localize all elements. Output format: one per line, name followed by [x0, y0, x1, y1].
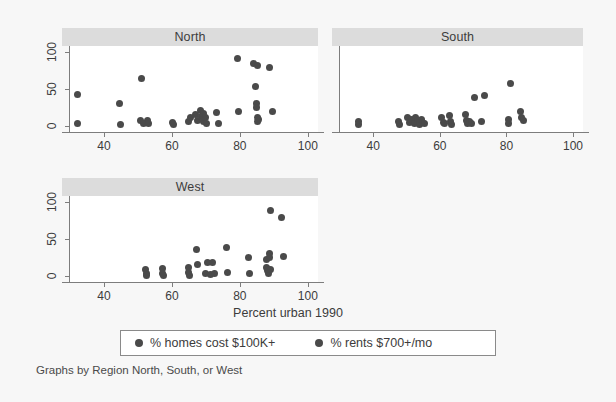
- panel-strip-west: West: [62, 178, 318, 196]
- legend-label: % homes cost $100K+: [150, 337, 275, 350]
- y-tick: [65, 202, 69, 203]
- data-point: [211, 270, 218, 277]
- legend-label: % rents $700+/mo: [330, 337, 432, 350]
- legend-marker-icon: [135, 339, 143, 347]
- plot-area-west: [70, 196, 318, 282]
- data-point: [186, 272, 193, 279]
- legend-marker-icon: [315, 339, 323, 347]
- data-point: [209, 259, 216, 266]
- data-point: [194, 261, 201, 268]
- data-point: [267, 207, 274, 214]
- y-tick-label: 50: [46, 232, 58, 245]
- y-axis-line: [69, 196, 70, 283]
- x-axis-line: [62, 282, 324, 283]
- data-point: [245, 254, 252, 261]
- x-tick-label: 80: [233, 290, 246, 302]
- data-point: [223, 244, 230, 251]
- chart-caption: Graphs by Region North, South, or West: [36, 364, 242, 376]
- x-tick: [240, 283, 241, 287]
- data-point: [160, 272, 167, 279]
- y-tick: [65, 276, 69, 277]
- data-point: [224, 269, 231, 276]
- data-point: [246, 270, 253, 277]
- x-tick-label: 100: [298, 290, 318, 302]
- data-point: [266, 254, 273, 261]
- x-tick-label: 40: [97, 290, 110, 302]
- legend-entry-1: % rents $700+/mo: [315, 337, 432, 350]
- chart-canvas: North406080100050100South406080100West40…: [0, 0, 616, 402]
- data-point: [280, 253, 287, 260]
- y-tick: [65, 239, 69, 240]
- y-tick-label: 100: [46, 192, 58, 212]
- x-axis-title: Percent urban 1990: [0, 306, 596, 320]
- x-tick: [104, 283, 105, 287]
- data-point: [267, 266, 274, 273]
- data-point: [143, 272, 150, 279]
- data-point: [278, 214, 285, 221]
- chart-legend: % homes cost $100K+% rents $700+/mo: [120, 330, 496, 356]
- panel-title: West: [176, 181, 205, 194]
- data-point: [193, 246, 200, 253]
- x-tick: [308, 283, 309, 287]
- legend-entry-0: % homes cost $100K+: [135, 337, 275, 350]
- y-tick-label: 0: [46, 273, 58, 280]
- x-tick: [172, 283, 173, 287]
- x-tick-label: 60: [165, 290, 178, 302]
